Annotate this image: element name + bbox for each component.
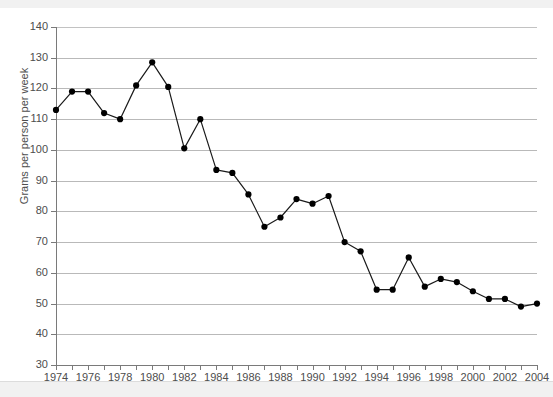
data-point-2001 (486, 296, 492, 302)
gridline-y-130 (56, 58, 537, 59)
y-tick-label-40: 40 (22, 327, 48, 339)
x-tick-mark-1993 (361, 366, 362, 370)
data-point-1998 (438, 276, 444, 282)
y-tick-label-120: 120 (22, 81, 48, 93)
x-tick-mark-2001 (489, 366, 490, 370)
x-tick-label-1994: 1994 (364, 371, 388, 383)
x-tick-mark-1976 (88, 366, 89, 370)
x-tick-label-2004: 2004 (525, 371, 549, 383)
data-point-2000 (470, 288, 476, 294)
x-axis-line (56, 365, 538, 366)
data-point-1980 (149, 59, 155, 65)
x-tick-mark-1985 (232, 366, 233, 370)
x-tick-mark-1988 (280, 366, 281, 370)
x-tick-label-1988: 1988 (268, 371, 292, 383)
x-tick-mark-1987 (264, 366, 265, 370)
data-point-1991 (325, 193, 331, 199)
x-tick-mark-1996 (409, 366, 410, 370)
y-tick-label-100: 100 (22, 143, 48, 155)
x-tick-label-1974: 1974 (44, 371, 68, 383)
x-tick-mark-1999 (457, 366, 458, 370)
series-line-path (56, 62, 537, 306)
x-tick-mark-1982 (184, 366, 185, 370)
data-point-1996 (406, 254, 412, 260)
x-tick-mark-1990 (313, 366, 314, 370)
page-background: Grams per person per week 30405060708090… (0, 0, 553, 397)
x-tick-mark-1974 (56, 366, 57, 370)
x-tick-mark-1981 (168, 366, 169, 370)
data-series-layer (0, 0, 553, 397)
x-tick-mark-1995 (393, 366, 394, 370)
y-tick-label-80: 80 (22, 204, 48, 216)
x-tick-mark-1992 (345, 366, 346, 370)
y-axis-line (56, 27, 57, 366)
data-point-1994 (374, 287, 380, 293)
data-point-1988 (277, 214, 283, 220)
gridline-y-120 (56, 88, 537, 89)
x-tick-label-1996: 1996 (396, 371, 420, 383)
x-tick-label-1990: 1990 (300, 371, 324, 383)
data-point-1990 (309, 201, 315, 207)
x-tick-mark-1994 (377, 366, 378, 370)
gridline-y-100 (56, 150, 537, 151)
x-tick-label-1986: 1986 (236, 371, 260, 383)
x-tick-label-1980: 1980 (140, 371, 164, 383)
line-chart: Grams per person per week 30405060708090… (0, 0, 553, 397)
gridline-y-50 (56, 304, 537, 305)
data-point-1999 (454, 279, 460, 285)
x-tick-mark-1997 (425, 366, 426, 370)
gridline-y-40 (56, 334, 537, 335)
data-point-1976 (85, 88, 91, 94)
x-tick-label-1992: 1992 (332, 371, 356, 383)
x-tick-label-2002: 2002 (493, 371, 517, 383)
x-tick-mark-1977 (104, 366, 105, 370)
data-point-1984 (213, 167, 219, 173)
data-point-1993 (358, 248, 364, 254)
data-point-1985 (229, 170, 235, 176)
x-tick-label-1982: 1982 (172, 371, 196, 383)
y-tick-label-130: 130 (22, 51, 48, 63)
x-tick-mark-1978 (120, 366, 121, 370)
data-point-1981 (165, 84, 171, 90)
y-tick-label-70: 70 (22, 235, 48, 247)
data-point-1989 (293, 196, 299, 202)
y-tick-label-140: 140 (22, 20, 48, 32)
data-point-1986 (245, 191, 251, 197)
x-tick-label-2000: 2000 (461, 371, 485, 383)
data-point-2002 (502, 296, 508, 302)
data-point-1977 (101, 110, 107, 116)
gridline-y-90 (56, 181, 537, 182)
y-tick-label-50: 50 (22, 297, 48, 309)
y-tick-label-90: 90 (22, 174, 48, 186)
x-tick-mark-1991 (329, 366, 330, 370)
x-tick-mark-2004 (537, 366, 538, 370)
x-tick-label-1998: 1998 (429, 371, 453, 383)
x-tick-mark-1975 (72, 366, 73, 370)
y-tick-label-60: 60 (22, 266, 48, 278)
x-tick-mark-2002 (505, 366, 506, 370)
data-point-1975 (69, 88, 75, 94)
gridline-y-80 (56, 211, 537, 212)
x-tick-label-1978: 1978 (108, 371, 132, 383)
gridline-y-70 (56, 242, 537, 243)
gridline-y-60 (56, 273, 537, 274)
gridline-y-110 (56, 119, 537, 120)
data-point-1997 (422, 284, 428, 290)
data-point-1987 (261, 224, 267, 230)
x-tick-mark-1998 (441, 366, 442, 370)
x-tick-mark-1979 (136, 366, 137, 370)
x-tick-mark-1984 (216, 366, 217, 370)
x-tick-label-1976: 1976 (76, 371, 100, 383)
x-tick-label-1984: 1984 (204, 371, 228, 383)
y-tick-label-30: 30 (22, 358, 48, 370)
gridline-y-140 (56, 27, 537, 28)
data-point-1995 (390, 287, 396, 293)
x-tick-mark-1980 (152, 366, 153, 370)
x-tick-mark-1983 (200, 366, 201, 370)
x-tick-mark-2003 (521, 366, 522, 370)
y-tick-label-110: 110 (22, 112, 48, 124)
x-tick-mark-1989 (297, 366, 298, 370)
x-tick-mark-2000 (473, 366, 474, 370)
x-tick-mark-1986 (248, 366, 249, 370)
